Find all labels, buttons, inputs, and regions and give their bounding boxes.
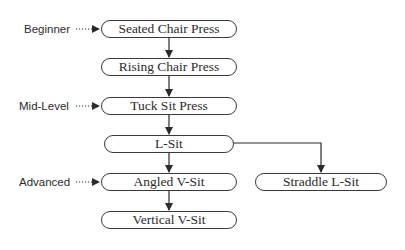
node-straddle-l-sit: Straddle L-Sit	[255, 173, 387, 191]
node-seated-chair-press: Seated Chair Press	[101, 20, 237, 38]
level-label-beginner: Beginner	[24, 22, 70, 36]
node-vertical-v-sit: Vertical V-Sit	[101, 211, 237, 229]
node-l-sit: L-Sit	[104, 135, 234, 153]
node-angled-v-sit: Angled V-Sit	[101, 173, 237, 191]
level-label-advanced: Advanced	[19, 175, 70, 189]
level-label-mid-level: Mid-Level	[19, 99, 69, 113]
node-rising-chair-press: Rising Chair Press	[101, 58, 237, 76]
arrow-lsit-to-straddle	[233, 143, 321, 172]
node-tuck-sit-press: Tuck Sit Press	[101, 97, 237, 115]
